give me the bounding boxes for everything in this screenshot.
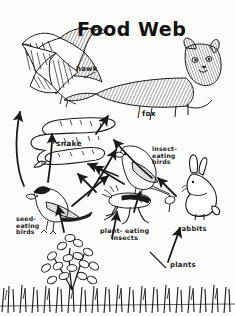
label-hawk: hawk [76, 66, 98, 73]
rabbit-icon [182, 155, 220, 220]
label-plant-eating-insects: plant- eating insects [100, 228, 149, 241]
arrow-rabbits-up [158, 178, 176, 196]
arrow-seedbirds-to-hawk [17, 112, 24, 186]
label-rabbits: rabbits [178, 226, 207, 233]
diagram-artwork [0, 0, 235, 316]
arrow-crossing-right [72, 176, 108, 206]
label-plants: plants [170, 262, 196, 269]
arrow-insectbirds-to-snake [88, 164, 118, 176]
grasshopper-icon [102, 185, 151, 224]
diagram-title: Food Web [77, 18, 186, 40]
label-seed-eating-birds: seed- eating birds [16, 216, 40, 236]
label-snake: snake [56, 140, 82, 148]
label-fox: fox [142, 110, 156, 118]
label-insect-eating-birds: insect- eating birds [152, 146, 177, 166]
food-web-diagram: Food Web hawk fox snake insect- eating b… [0, 0, 235, 316]
fox-icon [64, 38, 221, 120]
grass-icon [0, 285, 235, 313]
